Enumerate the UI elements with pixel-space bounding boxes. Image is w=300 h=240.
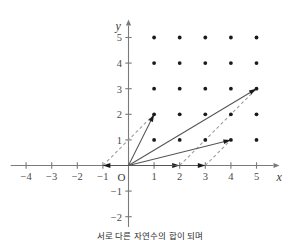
y-tick-label: −2	[111, 212, 122, 223]
y-tick-label: −1	[111, 186, 122, 197]
y-axis-arrowhead	[126, 20, 131, 26]
lattice-point	[203, 138, 207, 142]
coordinate-plane-figure: −4−3−2−11234554321−1−2Oxy 서로 다른 자연수의 합이 …	[0, 0, 300, 240]
y-tick-label: 5	[117, 32, 122, 43]
lattice-point	[255, 61, 259, 65]
lattice-point	[178, 36, 182, 40]
dashed-construction-line	[180, 89, 257, 166]
origin-label: O	[118, 171, 126, 183]
vector-arrowhead	[198, 163, 206, 168]
lattice-point	[255, 112, 259, 116]
x-tick-label: −1	[97, 171, 108, 182]
lattice-point	[203, 112, 207, 116]
y-tick-label: 3	[117, 84, 122, 95]
lattice-point	[255, 138, 259, 142]
x-tick-label: 3	[203, 171, 208, 182]
y-tick-label: 2	[117, 109, 122, 120]
x-tick-label: −3	[46, 171, 57, 182]
dashed-construction-line	[205, 140, 231, 166]
lattice-point	[152, 138, 156, 142]
lattice-point	[229, 138, 233, 142]
lattice-point	[152, 112, 156, 116]
lattice-point	[255, 36, 259, 40]
x-tick-label: 2	[177, 171, 182, 182]
y-tick-label: 1	[117, 135, 122, 146]
lattice-point	[229, 87, 233, 91]
lattice-point	[178, 61, 182, 65]
lattice-point	[178, 112, 182, 116]
lattice-point	[229, 36, 233, 40]
lattice-point	[203, 36, 207, 40]
x-axis-arrowhead	[274, 163, 280, 168]
lattice-point	[229, 61, 233, 65]
figure-caption: 서로 다른 자연수의 합이 되며	[0, 231, 300, 240]
lattice-point	[152, 36, 156, 40]
y-tick-label: 4	[117, 58, 123, 69]
x-tick-label: 4	[228, 171, 234, 182]
vector-line	[129, 140, 231, 166]
lattice-point	[178, 87, 182, 91]
lattice-point	[229, 112, 233, 116]
x-axis-label: x	[276, 170, 283, 184]
x-tick-label: −4	[21, 171, 33, 182]
lattice-point	[152, 61, 156, 65]
x-tick-label: −2	[72, 171, 83, 182]
coordinate-plot: −4−3−2−11234554321−1−2Oxy	[0, 0, 300, 240]
x-tick-label: 5	[254, 171, 259, 182]
y-axis-label: y	[115, 19, 122, 33]
x-tick-label: 1	[151, 171, 156, 182]
lattice-point	[255, 87, 259, 91]
lattice-point	[152, 87, 156, 91]
lattice-point	[178, 138, 182, 142]
lattice-point	[203, 87, 207, 91]
lattice-point	[203, 61, 207, 65]
